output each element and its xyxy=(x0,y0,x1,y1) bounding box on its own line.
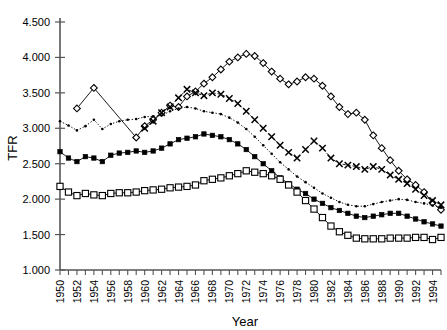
x-marker-series-marker xyxy=(311,138,317,144)
svg-text:1972: 1972 xyxy=(240,280,252,304)
filled-square-series-marker xyxy=(126,150,130,154)
svg-text:1982: 1982 xyxy=(325,280,337,304)
open-square-series-marker xyxy=(260,171,266,177)
filled-square-series-marker xyxy=(159,146,163,150)
filled-square-series-marker xyxy=(236,142,240,146)
open-square-series-marker xyxy=(243,168,249,174)
svg-text:1966: 1966 xyxy=(189,280,201,304)
small-dot-series-marker xyxy=(406,199,409,202)
filled-square-series-marker xyxy=(430,222,434,226)
filled-square-series-marker xyxy=(58,149,62,153)
svg-text:1988: 1988 xyxy=(376,280,388,304)
filled-square-series-marker xyxy=(439,224,443,228)
small-dot-series-marker xyxy=(135,118,138,121)
open-square-series-marker xyxy=(438,234,444,240)
small-dot-series-marker xyxy=(270,152,273,155)
x-axis-tick-labels: 1950195219541956195819601962196419661968… xyxy=(54,280,439,304)
small-dot-series-marker xyxy=(237,121,240,124)
small-dot-series-marker xyxy=(110,123,113,126)
small-dot-series-marker xyxy=(321,192,324,195)
open-square-series-marker xyxy=(429,236,435,242)
open-square-series-marker xyxy=(125,190,131,196)
x-marker-series-marker xyxy=(201,92,207,98)
small-dot-series-marker xyxy=(143,116,146,119)
filled-square-series-marker xyxy=(354,214,358,218)
x-marker-series-marker xyxy=(260,125,266,131)
small-dot-series-marker xyxy=(304,181,307,184)
small-dot-series-marker xyxy=(84,125,87,128)
open-square-series-marker xyxy=(353,235,359,241)
filled-square-series-marker xyxy=(202,132,206,136)
open-square-series-marker xyxy=(82,190,88,196)
small-dot-series-marker xyxy=(118,120,121,123)
open-square-series-marker xyxy=(209,176,215,182)
x-marker-series-marker xyxy=(226,95,232,101)
svg-text:1960: 1960 xyxy=(139,280,151,304)
small-dot-series-marker xyxy=(67,124,70,127)
open-square-series-marker xyxy=(277,176,283,182)
x-marker-series-marker xyxy=(252,117,258,123)
open-diamond-series-marker xyxy=(294,78,301,85)
open-diamond-series-marker xyxy=(302,74,309,81)
filled-square-series-marker xyxy=(83,154,87,158)
x-marker-series-marker xyxy=(302,146,308,152)
open-square-series-marker xyxy=(404,235,410,241)
svg-text:1986: 1986 xyxy=(359,280,371,304)
small-dot-series-marker xyxy=(228,116,231,119)
open-square-series-marker xyxy=(175,184,181,190)
svg-text:1964: 1964 xyxy=(173,280,185,304)
small-dot-series-marker xyxy=(338,201,341,204)
x-marker-series-marker xyxy=(387,172,393,178)
small-dot-series-marker xyxy=(245,128,248,131)
svg-text:1984: 1984 xyxy=(342,280,354,304)
small-dot-series-marker xyxy=(423,202,426,205)
open-square-series-marker xyxy=(362,236,368,242)
open-square-series-marker xyxy=(286,182,292,188)
filled-square-series-marker xyxy=(227,137,231,141)
filled-square-series-marker xyxy=(380,213,384,217)
svg-text:1992: 1992 xyxy=(410,280,422,304)
filled-square-series-marker xyxy=(422,220,426,224)
open-square-series xyxy=(57,168,444,243)
small-dot-series-marker xyxy=(414,201,417,204)
open-square-series-marker xyxy=(74,193,80,199)
open-square-series-marker xyxy=(387,235,393,241)
open-square-series-marker xyxy=(336,229,342,235)
open-square-series-marker xyxy=(116,190,122,196)
open-square-series-marker xyxy=(133,189,139,195)
data-series xyxy=(57,50,445,242)
small-dot-series-marker xyxy=(262,144,265,147)
small-dot-series-marker xyxy=(397,198,400,201)
open-diamond-series-marker xyxy=(370,132,377,139)
filled-square-series-marker xyxy=(253,154,257,158)
open-diamond-series-marker xyxy=(285,81,292,88)
small-dot-series-marker xyxy=(364,205,367,208)
small-dot-series-marker xyxy=(220,113,223,116)
filled-square-series-marker xyxy=(151,149,155,153)
filled-square-series-marker xyxy=(210,133,214,137)
open-square-series-marker xyxy=(184,183,190,189)
small-dot-series-marker xyxy=(59,120,62,123)
x-marker-series-marker xyxy=(268,134,274,140)
filled-square-series-marker xyxy=(312,197,316,201)
small-dot-series-marker xyxy=(101,128,104,131)
svg-text:1990: 1990 xyxy=(393,280,405,304)
x-marker-series-marker xyxy=(175,95,181,101)
chart-container: 1.0001.5002.0002.5003.0003.5004.0004.500… xyxy=(0,0,447,330)
open-square-series-marker xyxy=(91,192,97,198)
open-square-series-marker xyxy=(421,234,427,240)
open-square-series-marker xyxy=(108,190,114,196)
filled-square-series-marker xyxy=(413,217,417,221)
filled-square-series-marker xyxy=(142,150,146,154)
open-square-series-marker xyxy=(311,206,317,212)
x-marker-series-marker xyxy=(362,166,368,172)
filled-square-series-marker xyxy=(388,211,392,215)
x-marker-series-marker xyxy=(243,108,249,114)
open-square-series-marker xyxy=(159,186,165,192)
filled-square-series-marker xyxy=(168,142,172,146)
open-square-series-marker xyxy=(345,232,351,238)
small-dot-series-marker xyxy=(296,175,299,178)
filled-square-series-marker xyxy=(346,211,350,215)
svg-text:1950: 1950 xyxy=(54,280,66,304)
open-square-series-marker xyxy=(370,236,376,242)
